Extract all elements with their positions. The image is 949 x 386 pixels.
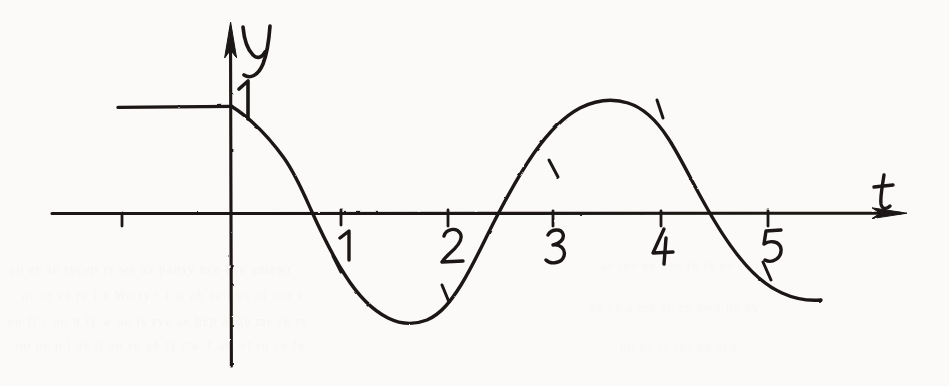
curve-hash-2 — [442, 285, 449, 302]
y-axis-label — [243, 26, 270, 77]
x-tick-label-3 — [546, 230, 564, 263]
x-tick-label-2 — [442, 229, 463, 262]
y-axis-line — [231, 30, 232, 366]
x-axis-label — [874, 175, 893, 208]
figure-container: co er ae recep rs we as pansy nce ose am… — [0, 0, 949, 386]
x-tick-label-5 — [764, 230, 781, 261]
hand-drawn-graph — [0, 0, 949, 386]
y-axis — [225, 22, 237, 366]
x-axis — [52, 208, 907, 219]
curve-hash-4 — [657, 100, 663, 118]
constant-segment — [118, 106, 232, 107]
x-tick-label-1 — [340, 231, 349, 260]
curve-hash-5 — [763, 262, 771, 280]
x-tick-label-4 — [653, 229, 673, 264]
curve-hash-3 — [549, 160, 558, 177]
